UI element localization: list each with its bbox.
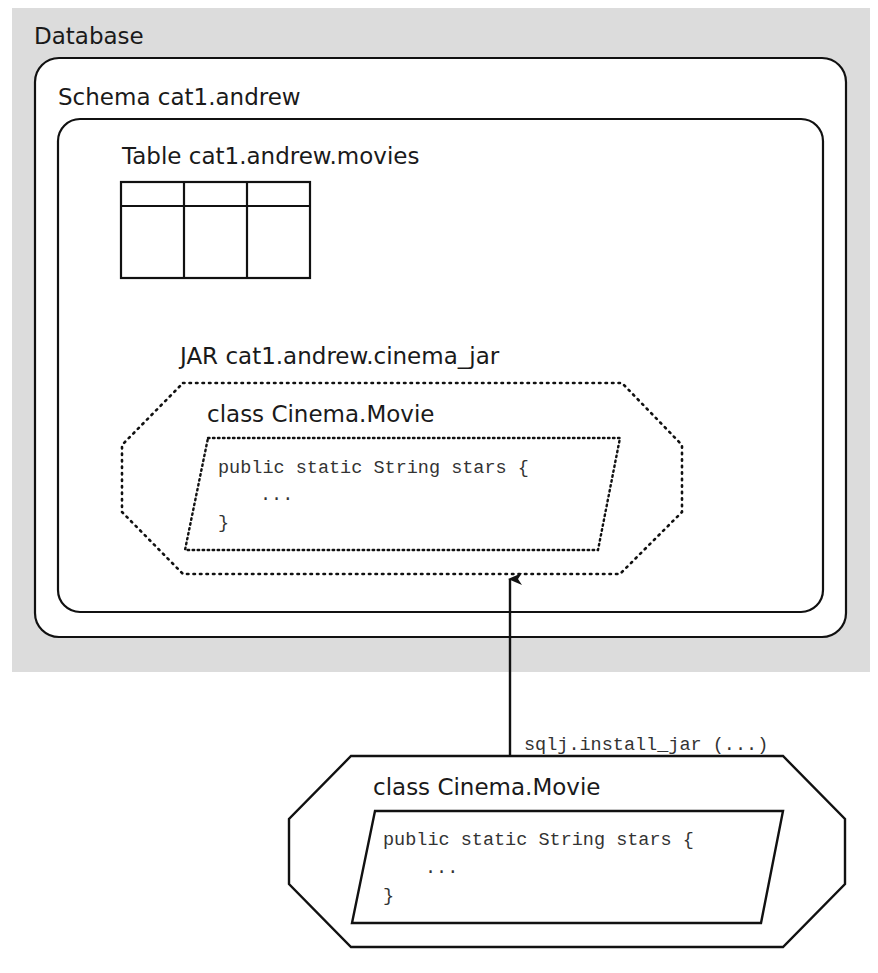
database-label: Database [34, 23, 144, 49]
external-class-label: class Cinema.Movie [373, 774, 600, 800]
jar-label: JAR cat1.andrew.cinema_jar [178, 343, 500, 369]
external-code-line-2: ... [425, 858, 458, 879]
jar-code-line-2: ... [260, 485, 293, 506]
jar-class-label: class Cinema.Movie [207, 401, 434, 427]
jar-code-line-3: } [218, 513, 229, 534]
external-code-line-3: } [383, 886, 394, 907]
jar-install-diagram: Database Schema cat1.andrew Table cat1.a… [0, 0, 878, 973]
install-jar-label: sqlj.install_jar (...) [524, 735, 768, 756]
table-label: Table cat1.andrew.movies [121, 143, 419, 169]
external-code-line-1: public static String stars { [383, 830, 694, 851]
jar-code-line-1: public static String stars { [218, 458, 529, 479]
schema-label: Schema cat1.andrew [58, 84, 301, 110]
